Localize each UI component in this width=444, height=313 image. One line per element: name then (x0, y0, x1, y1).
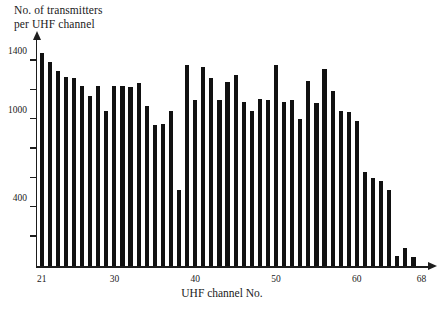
y-axis-line (36, 38, 37, 266)
bar (298, 119, 302, 266)
plot-area: 40010001400213040506068 (36, 46, 428, 266)
bar (104, 111, 108, 266)
bar (379, 181, 383, 266)
x-axis-tick-label: 21 (37, 274, 47, 284)
y-axis-tick-label: 1000 (8, 105, 27, 115)
bar (242, 102, 246, 266)
bar (185, 65, 189, 266)
bar (112, 86, 116, 266)
bar (387, 190, 391, 266)
uhf-transmitter-bar-chart: No. of transmitters per UHF channel 4001… (0, 0, 444, 313)
y-axis-tick-label: 400 (13, 193, 27, 203)
bar (371, 178, 375, 266)
x-axis-tick-label: 50 (271, 274, 281, 284)
bar (64, 77, 68, 266)
bar (234, 75, 238, 266)
bar (322, 69, 326, 266)
bar (403, 248, 407, 266)
bar (161, 124, 165, 266)
bar (339, 111, 343, 266)
bar (145, 106, 149, 266)
bar (282, 102, 286, 266)
y-axis-tick (30, 118, 37, 119)
bar (363, 172, 367, 266)
y-axis-arrow-icon (33, 31, 41, 40)
bar (314, 103, 318, 266)
bar (250, 111, 254, 266)
bar (48, 62, 52, 266)
bar (80, 86, 84, 266)
y-axis-tick (30, 59, 37, 60)
x-axis-tick-label: 68 (417, 274, 427, 284)
y-axis-tick-label: 1400 (8, 46, 27, 56)
bar (201, 67, 205, 266)
bar (217, 100, 221, 266)
bar (306, 81, 310, 266)
bar (411, 257, 415, 266)
bar (331, 91, 335, 266)
bar (355, 121, 359, 266)
bar (347, 112, 351, 266)
bar (274, 65, 278, 266)
bar (266, 100, 270, 266)
y-axis-tick (30, 206, 37, 207)
x-axis-title: UHF channel No. (0, 287, 444, 299)
y-axis-title: No. of transmitters per UHF channel (14, 3, 102, 31)
bar (72, 78, 76, 266)
y-axis-tick (30, 177, 37, 178)
bar (225, 82, 229, 266)
bar (120, 86, 124, 266)
bar (177, 190, 181, 266)
bar (56, 71, 60, 266)
bar (395, 256, 399, 266)
bar (193, 100, 197, 266)
bar (96, 86, 100, 266)
bar (153, 125, 157, 266)
bar (290, 100, 294, 266)
bar (137, 83, 141, 266)
x-axis-tick-label: 40 (190, 274, 200, 284)
bar (40, 53, 44, 266)
bar (169, 111, 173, 266)
bar (88, 96, 92, 266)
y-axis-tick (30, 89, 37, 90)
bar (258, 99, 262, 266)
y-axis-tick (30, 147, 37, 148)
x-axis-tick-label: 30 (110, 274, 120, 284)
x-axis-arrow-icon (428, 262, 437, 270)
x-axis-tick-label: 60 (352, 274, 362, 284)
bar (209, 78, 213, 266)
y-axis-tick (30, 235, 37, 236)
x-axis-line (36, 266, 428, 268)
bar (128, 87, 132, 266)
